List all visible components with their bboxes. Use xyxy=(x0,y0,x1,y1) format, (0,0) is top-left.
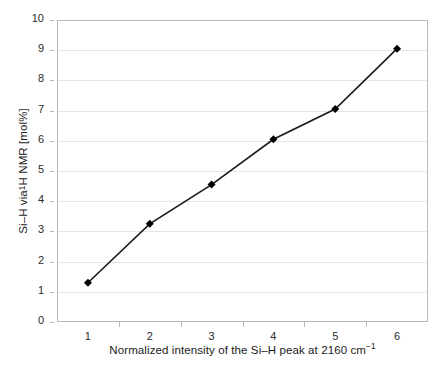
y-axis-tick-label: 2 xyxy=(14,254,44,266)
x-axis-title-text: Normalized intensity of the Si–H peak at… xyxy=(109,344,366,356)
x-axis-tick-label: 1 xyxy=(73,330,103,342)
y-axis-tick-mark xyxy=(50,322,54,323)
x-axis-tick-mark xyxy=(304,322,305,327)
y-axis-tick-mark xyxy=(50,201,54,202)
x-axis-tick-label: 6 xyxy=(382,330,412,342)
x-axis-tick-label: 3 xyxy=(197,330,227,342)
x-axis-tick-label: 4 xyxy=(258,330,288,342)
x-axis-tick-mark xyxy=(243,322,244,327)
y-axis-tick-mark xyxy=(50,80,54,81)
chart-container: Si–H via 1H NMR [mol%] 012345678910 1234… xyxy=(0,0,446,371)
x-axis-tick-label: 5 xyxy=(320,330,350,342)
y-axis-tick-mark xyxy=(50,171,54,172)
x-axis-tick-mark xyxy=(119,322,120,327)
data-series-line xyxy=(57,20,428,322)
y-axis-tick-label: 6 xyxy=(14,133,44,145)
y-axis-tick-label: 5 xyxy=(14,163,44,175)
y-axis-tick-label: 8 xyxy=(14,72,44,84)
x-axis-title: Normalized intensity of the Si–H peak at… xyxy=(57,344,428,356)
y-axis-tick-label: 7 xyxy=(14,103,44,115)
x-axis-tick-mark xyxy=(181,322,182,327)
y-axis-tick-label: 1 xyxy=(14,284,44,296)
y-axis-tick-mark xyxy=(50,292,54,293)
y-axis-tick-label: 4 xyxy=(14,193,44,205)
y-axis-tick-labels: 012345678910 xyxy=(0,20,50,322)
y-axis-tick-mark xyxy=(50,262,54,263)
y-axis-tick-mark xyxy=(50,20,54,21)
y-axis-tick-label: 10 xyxy=(14,12,44,24)
y-axis-tick-label: 9 xyxy=(14,42,44,54)
y-axis-tick-label: 0 xyxy=(14,314,44,326)
series-line xyxy=(88,49,397,283)
y-axis-tick-mark xyxy=(50,231,54,232)
y-axis-tick-mark xyxy=(50,141,54,142)
x-axis-title-superscript: −1 xyxy=(366,342,376,351)
y-axis-tick-label: 3 xyxy=(14,223,44,235)
y-axis-tick-mark xyxy=(50,111,54,112)
x-axis-tick-mark xyxy=(366,322,367,327)
y-axis-tick-mark xyxy=(50,50,54,51)
x-axis-tick-label: 2 xyxy=(135,330,165,342)
